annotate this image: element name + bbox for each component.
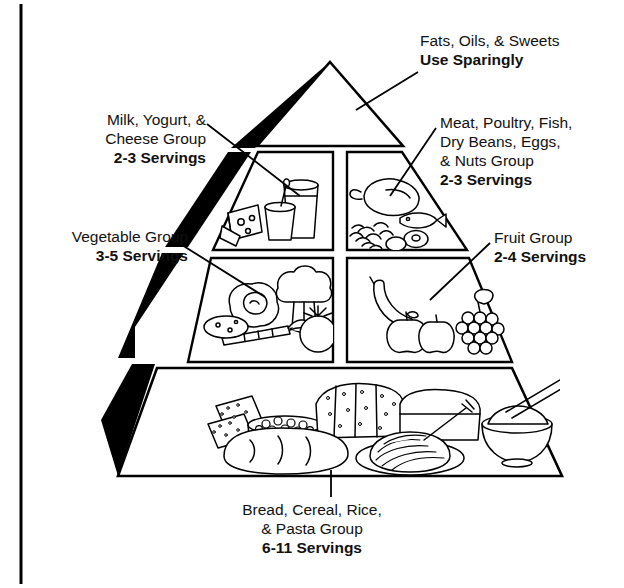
egg-icon	[386, 237, 406, 251]
potato-eye	[234, 320, 237, 323]
callout-meat-group-line: & Nuts Group	[440, 152, 572, 171]
potato-icon	[204, 316, 248, 338]
callout-fruit-servings: 2-4 Servings	[494, 248, 586, 267]
callout-fats: Fats, Oils, & Sweets Use Sparingly	[420, 32, 560, 70]
poultry-drumstick	[350, 190, 362, 199]
callout-fruit-group-line: Fruit Group	[494, 229, 586, 248]
apple-stem	[436, 315, 437, 322]
tier-grains	[118, 368, 566, 476]
food-pyramid-diagram: Fats, Oils, & Sweets Use Sparingly Milk,…	[0, 0, 624, 588]
callout-fruit: Fruit Group 2-4 Servings	[494, 229, 586, 267]
callout-milk-group-line: Cheese Group	[105, 130, 206, 149]
callout-milk-group-line: Milk, Yogurt, &	[105, 111, 206, 130]
egg-yolk	[412, 235, 420, 241]
callout-meat-group-line: Meat, Poultry, Fish,	[440, 114, 572, 133]
potato-eye	[228, 328, 232, 332]
callout-milk-servings: 2-3 Servings	[105, 149, 206, 168]
grape-leaf	[475, 290, 493, 304]
yogurt-cup-rim	[265, 203, 295, 212]
callout-bread-group-line: & Pasta Group	[0, 520, 624, 539]
tier-produce	[188, 258, 512, 362]
cheese-hole	[238, 219, 244, 225]
callout-milk: Milk, Yogurt, & Cheese Group 2-3 Serving…	[105, 111, 206, 168]
callout-meat-group-line: Dry Beans, Eggs,	[440, 133, 572, 152]
cheese-hole	[246, 229, 251, 234]
callout-fats-group-line: Fats, Oils, & Sweets	[420, 32, 560, 51]
leader-line-fats	[356, 72, 418, 110]
wedge-segment-3	[118, 253, 184, 358]
baguette-icon	[224, 428, 348, 474]
rice-bowl-foot	[502, 459, 532, 467]
cheese-hole	[249, 215, 254, 220]
callout-meat: Meat, Poultry, Fish, Dry Beans, Eggs, & …	[440, 114, 572, 190]
pyramid-graphic	[0, 0, 624, 588]
callout-meat-servings: 2-3 Servings	[440, 171, 572, 190]
tier-fats-shape	[257, 62, 403, 146]
tier-dairy-protein	[213, 152, 467, 251]
callout-vegetable-servings: 3-5 Servings	[72, 247, 188, 266]
callout-vegetable-group-line: Vegetable Group	[72, 228, 188, 247]
potato-eye	[216, 323, 220, 327]
tomato-icon	[300, 316, 336, 352]
callout-fats-servings: Use Sparingly	[420, 51, 560, 70]
tier-fats	[257, 62, 403, 146]
apple-icon	[419, 322, 454, 352]
callout-bread-group-line: Bread, Cereal, Rice,	[0, 501, 624, 520]
callout-bread-servings: 6-11 Servings	[0, 539, 624, 558]
callout-bread: Bread, Cereal, Rice, & Pasta Group 6-11 …	[0, 501, 624, 558]
fish-eye	[406, 217, 409, 220]
callout-vegetable: Vegetable Group 3-5 Servings	[72, 228, 188, 266]
